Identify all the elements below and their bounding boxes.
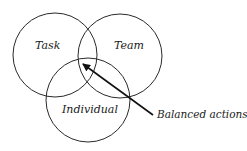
balanced-actions-label: Balanced actions [156,108,247,120]
task-label: Task [35,39,61,52]
team-circle [78,14,162,98]
task-circle [13,13,97,97]
individual-circle [46,58,130,142]
venn-diagram: Task Team Individual Balanced actions [0,0,247,151]
team-label: Team [114,39,144,52]
individual-label: Individual [61,103,118,116]
